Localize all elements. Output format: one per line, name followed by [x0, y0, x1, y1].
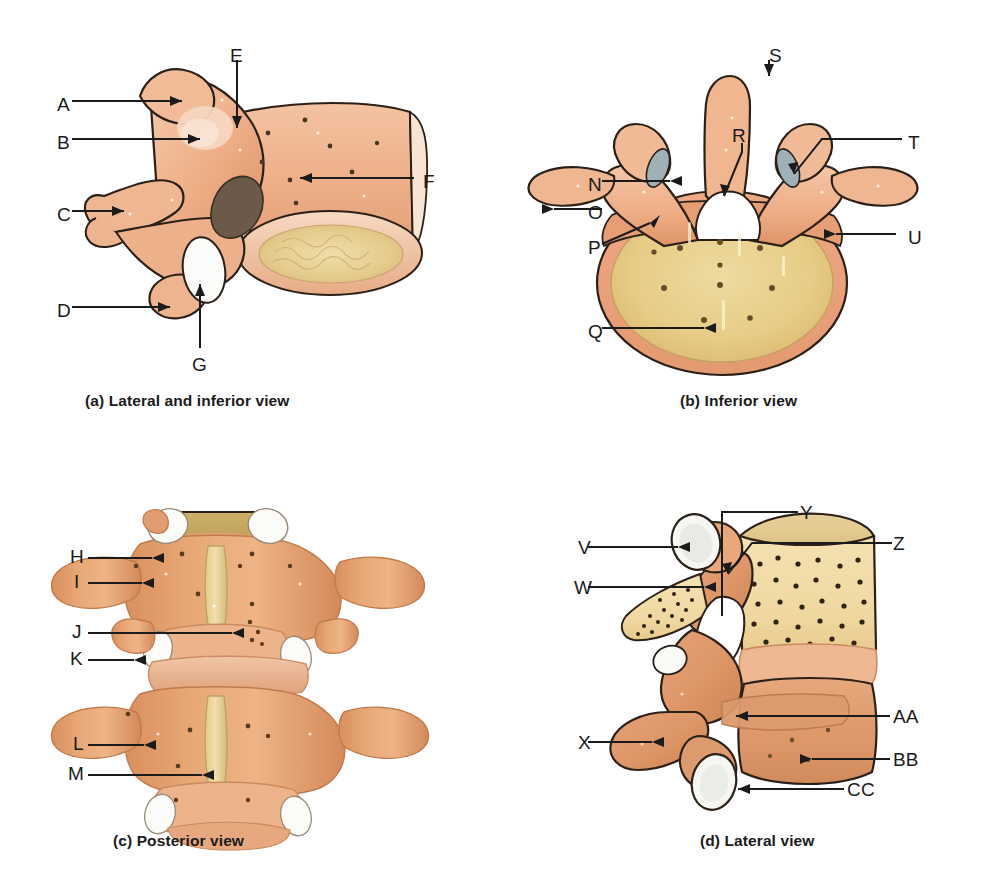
panel-lateral-view: V W X Y Z AA BB CC (d) Lateral view [492, 444, 984, 887]
label-q: Q [588, 322, 603, 341]
label-j: J [72, 622, 82, 641]
label-n: N [588, 175, 602, 194]
label-x: X [578, 733, 591, 752]
vertebra-lateral-inferior-illustration [0, 0, 492, 444]
vertebra-inferior-illustration [492, 0, 984, 444]
label-cc: CC [847, 780, 875, 799]
panel-b-caption: (b) Inferior view [680, 392, 797, 410]
panel-a-caption: (a) Lateral and inferior view [85, 392, 289, 410]
label-bb: BB [893, 750, 919, 769]
panel-lateral-inferior-view: A B C D E F G (a) Lateral and inferior v… [0, 0, 492, 444]
label-k: K [70, 649, 83, 668]
label-c: C [57, 205, 71, 224]
label-m: M [68, 764, 84, 783]
anatomy-figure: A B C D E F G (a) Lateral and inferior v… [0, 0, 984, 887]
label-r: R [732, 126, 746, 145]
panel-c-caption: (c) Posterior view [113, 832, 244, 850]
label-d: D [57, 301, 71, 320]
label-t: T [908, 133, 920, 152]
label-h: H [70, 547, 84, 566]
panel-d-caption: (d) Lateral view [700, 832, 814, 850]
label-a: A [57, 95, 70, 114]
panel-inferior-view: N O P Q R S T U (b) Inferior view [492, 0, 984, 444]
label-z: Z [893, 534, 905, 553]
vertebra-lateral-illustration [492, 444, 984, 887]
label-aa: AA [893, 707, 919, 726]
label-u: U [908, 228, 922, 247]
label-l: L [73, 734, 84, 753]
panel-posterior-view: H I J K L M (c) Posterior view [0, 444, 492, 887]
label-p: P [588, 238, 601, 257]
label-e: E [230, 46, 243, 65]
label-v: V [578, 538, 591, 557]
label-i: I [74, 572, 79, 591]
label-g: G [192, 355, 207, 374]
label-w: W [574, 578, 592, 597]
label-b: B [57, 133, 70, 152]
label-s: S [769, 46, 782, 65]
label-o: O [588, 203, 603, 222]
label-y: Y [800, 503, 813, 522]
label-f: F [423, 172, 435, 191]
